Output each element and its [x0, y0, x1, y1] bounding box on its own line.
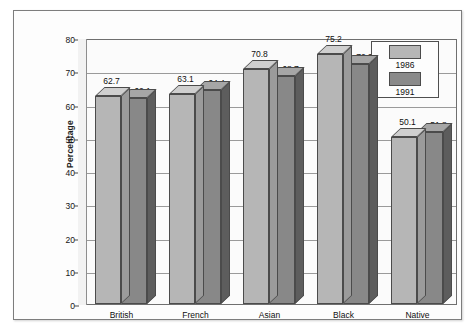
- legend-swatch-1991: [389, 72, 421, 86]
- legend-label-1986: 1986: [372, 59, 438, 71]
- x-axis-tick-label-british: British: [110, 310, 134, 320]
- bar-face-side: [343, 46, 352, 304]
- y-axis-tick-mark: [74, 306, 79, 307]
- bar-face-side: [269, 60, 278, 304]
- bar-value-label: 50.1: [399, 117, 416, 127]
- x-axis-tick-label-french: French: [182, 310, 208, 320]
- bar-face-side: [221, 81, 230, 304]
- chart-legend: 1986 1991: [371, 41, 439, 98]
- chart-frame: Percentage 0102030405060708062.762.163.1…: [13, 10, 462, 320]
- bar-value-label: 63.1: [177, 74, 194, 84]
- chart-page: Percentage 0102030405060708062.762.163.1…: [0, 0, 475, 336]
- legend-label-1991: 1991: [372, 86, 438, 98]
- bar-face-front: [169, 94, 195, 304]
- bar-british-1986: [95, 96, 121, 304]
- bar-face-front: [391, 137, 417, 304]
- legend-swatch-1986: [389, 45, 421, 59]
- x-axis-tick-label-native: Native: [405, 310, 429, 320]
- bar-face-side: [147, 89, 156, 304]
- bar-value-label: 70.8: [251, 49, 268, 59]
- bar-face-side: [295, 67, 304, 304]
- plot-depth-wall: [78, 39, 87, 305]
- x-axis-tick-label-asian: Asian: [259, 310, 280, 320]
- bar-native-1986: [391, 137, 417, 304]
- bar-face-side: [417, 129, 426, 304]
- bar-face-front: [243, 69, 269, 304]
- bar-asian-1986: [243, 69, 269, 304]
- x-axis-tick-label-black: Black: [333, 310, 354, 320]
- bar-face-side: [121, 87, 130, 304]
- bar-face-side: [369, 55, 378, 304]
- bar-face-side: [443, 123, 452, 304]
- bar-face-front: [317, 54, 343, 304]
- bar-french-1986: [169, 94, 195, 304]
- bar-black-1986: [317, 54, 343, 304]
- bar-value-label: 62.7: [103, 76, 120, 86]
- bar-value-label: 75.2: [325, 34, 342, 44]
- bar-face-front: [95, 96, 121, 304]
- bar-face-side: [195, 86, 204, 304]
